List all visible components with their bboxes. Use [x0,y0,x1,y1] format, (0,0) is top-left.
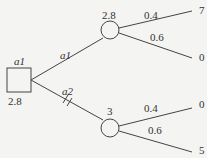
outcome-prob: 0.6 [150,32,164,43]
outcome-payoff: 5 [199,145,205,156]
outcome-prob: 0.6 [148,125,162,136]
outcome-prob: 0.4 [144,10,158,21]
branch-a2-label: a2 [62,86,73,97]
outcome-payoff: 7 [199,5,205,16]
chance-node-2-circle [101,119,119,137]
outcome-payoff: 0 [199,52,205,63]
decision-node-square [7,68,31,92]
decision-node-value: 2.8 [8,96,22,107]
chance-node-1-circle [101,21,119,39]
outcome-payoff: 0 [199,99,205,110]
outcome-prob: 0.4 [144,103,158,114]
chance-node-1-value: 2.8 [102,10,116,21]
decision-node-label: a1 [14,56,25,67]
branch-a1-label: a1 [60,50,71,61]
decision-tree-lines [0,0,207,158]
chance-node-2-value: 3 [107,106,113,117]
